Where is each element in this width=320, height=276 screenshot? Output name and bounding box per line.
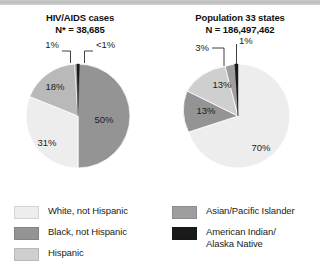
- chart-sample-size-right: N = 186,497,462: [160, 24, 320, 36]
- legend-item-hispanic: Hispanic: [14, 247, 164, 261]
- legend-swatch-american-indian-alaska-native: [172, 227, 197, 240]
- legend-column-right: Asian/Pacific Islander American Indian/ …: [172, 205, 320, 256]
- slice-label-black-right: 13%: [196, 105, 216, 116]
- legend-swatch-black-not-hispanic: [14, 227, 39, 240]
- legend-label-american-indian-alaska-native: American Indian/ Alaska Native: [206, 226, 276, 249]
- slice-label-hispanic-left: 18%: [45, 81, 65, 92]
- leader-line-american-indian-left: [85, 51, 94, 63]
- chart-panel-population-33-states: Population 33 states N = 186,497,462 3% …: [160, 12, 320, 197]
- legend-label-hispanic: Hispanic: [48, 247, 84, 259]
- slice-label-american-indian-right: 1%: [239, 35, 253, 46]
- slice-label-american-indian-left: <1%: [96, 39, 116, 50]
- slice-label-black-left: 50%: [94, 114, 114, 125]
- pie-chart-left: 1% <1% 50% 31% 18%: [0, 38, 160, 196]
- legend-item-black-not-hispanic: Black, not Hispanic: [14, 226, 164, 240]
- slice-label-white-left: 31%: [37, 137, 57, 148]
- chart-title-left: HIV/AIDS cases: [0, 12, 160, 24]
- legend-swatch-asian-pacific-islander: [172, 206, 197, 219]
- decorative-top-bar: [0, 0, 320, 5]
- slice-label-asian-right: 3%: [195, 42, 209, 53]
- chart-panel-hiv-aids-cases: HIV/AIDS cases N* = 38,685 1% <1% 50% 31…: [0, 12, 160, 197]
- pie-svg-right: 3% 1% 70% 13% 13%: [160, 38, 320, 196]
- slice-label-white-right: 70%: [251, 142, 271, 153]
- legend-label-black-not-hispanic: Black, not Hispanic: [48, 226, 127, 238]
- chart-legend: White, not Hispanic Black, not Hispanic …: [0, 205, 320, 276]
- chart-sample-size-left: N* = 38,685: [0, 24, 160, 36]
- leader-line-asian-left: [62, 51, 71, 63]
- slice-label-asian-left: 1%: [45, 39, 59, 50]
- legend-item-white-not-hispanic: White, not Hispanic: [14, 205, 164, 219]
- pie-svg-left: 1% <1% 50% 31% 18%: [0, 38, 160, 196]
- legend-item-asian-pacific-islander: Asian/Pacific Islander: [172, 205, 320, 219]
- leader-line-asian-right: [212, 48, 224, 66]
- chart-title-right: Population 33 states: [160, 12, 320, 24]
- legend-column-left: White, not Hispanic Black, not Hispanic …: [14, 205, 164, 268]
- legend-label-white-not-hispanic: White, not Hispanic: [48, 205, 128, 217]
- legend-item-american-indian-alaska-native: American Indian/ Alaska Native: [172, 226, 320, 249]
- legend-swatch-hispanic: [14, 248, 39, 261]
- legend-swatch-white-not-hispanic: [14, 206, 39, 219]
- pie-chart-right: 3% 1% 70% 13% 13%: [160, 38, 320, 196]
- slice-label-hispanic-right: 13%: [212, 79, 232, 90]
- legend-label-asian-pacific-islander: Asian/Pacific Islander: [206, 205, 295, 217]
